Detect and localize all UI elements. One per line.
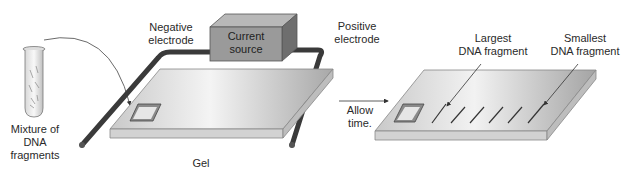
largest-label-line1: Largest [453, 32, 533, 45]
positive-electrode-label: Positive electrode [327, 20, 387, 46]
test-tube-icon [23, 47, 45, 118]
allow-label-line2: time. [342, 117, 378, 130]
gel-label-text: Gel [186, 157, 216, 170]
mixture-label-line3: fragments [4, 149, 66, 162]
current-source-label: Current source [212, 30, 280, 56]
current-label-line2: source [212, 43, 280, 56]
negative-label-line1: Negative [141, 21, 201, 34]
mixture-label-line1: Mixture of [4, 123, 66, 136]
smallest-label-line1: Smallest [545, 32, 625, 45]
allow-time-label: Allow time. [342, 104, 378, 130]
positive-label-line2: electrode [327, 33, 387, 46]
mixture-label-line2: DNA [4, 136, 66, 149]
pipette-arrow [44, 38, 130, 105]
current-label-line1: Current [212, 30, 280, 43]
negative-label-line2: electrode [141, 34, 201, 47]
gel-slab-separated [375, 70, 596, 140]
gel-electrophoresis-diagram [0, 0, 629, 176]
largest-fragment-label: Largest DNA fragment [453, 32, 533, 58]
smallest-label-line2: DNA fragment [545, 45, 625, 58]
allow-label-line1: Allow [342, 104, 378, 117]
largest-label-line2: DNA fragment [453, 45, 533, 58]
positive-label-line1: Positive [327, 20, 387, 33]
smallest-fragment-label: Smallest DNA fragment [545, 32, 625, 58]
mixture-label: Mixture of DNA fragments [4, 123, 66, 162]
negative-electrode-label: Negative electrode [141, 21, 201, 47]
gel-label: Gel [186, 157, 216, 170]
